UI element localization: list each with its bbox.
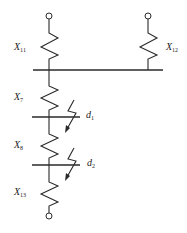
terminal-bottom bbox=[46, 213, 52, 219]
reactor-x7 bbox=[41, 70, 58, 117]
label-x8: X8 bbox=[14, 140, 23, 151]
terminal-top-right bbox=[145, 13, 151, 19]
label-x12: X12 bbox=[166, 42, 178, 53]
fault-arrowhead-d2 bbox=[65, 173, 70, 181]
fault-arrow-d2-icon bbox=[67, 148, 76, 177]
fault-arrow-d1-icon bbox=[67, 100, 76, 129]
reactor-x11 bbox=[41, 19, 58, 70]
reactor-x8 bbox=[41, 117, 58, 165]
label-x7: X7 bbox=[14, 92, 23, 103]
reactor-x13 bbox=[41, 165, 58, 213]
label-x13: X13 bbox=[14, 187, 26, 198]
terminal-top-left bbox=[46, 13, 52, 19]
label-d1: d1 bbox=[86, 110, 94, 121]
reactor-x12 bbox=[140, 19, 157, 70]
label-x11: X11 bbox=[14, 42, 26, 53]
label-d2: d2 bbox=[87, 158, 95, 169]
fault-arrowhead-d1 bbox=[65, 125, 70, 133]
